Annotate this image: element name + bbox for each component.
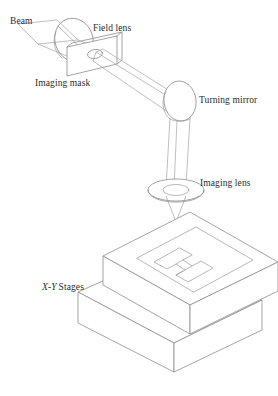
label-field-lens: Field lens bbox=[93, 24, 131, 34]
imaging-lens bbox=[148, 179, 204, 202]
label-xy-stages-y: Y bbox=[51, 282, 56, 292]
label-xy-stages-word: Stages bbox=[59, 282, 84, 292]
label-imaging-lens: Imaging lens bbox=[200, 179, 251, 189]
label-xy-stages: X-YStages bbox=[42, 283, 84, 293]
diagram-canvas bbox=[0, 0, 278, 396]
turning-mirror bbox=[161, 79, 198, 123]
label-turning-mirror: Turning mirror bbox=[199, 96, 257, 106]
beam-mirror-to-lens bbox=[166, 117, 190, 189]
label-imaging-mask: Imaging mask bbox=[35, 79, 90, 89]
optics-diagram: Beam Field lens Imaging mask Turning mir… bbox=[0, 0, 278, 396]
label-beam: Beam bbox=[10, 17, 33, 27]
